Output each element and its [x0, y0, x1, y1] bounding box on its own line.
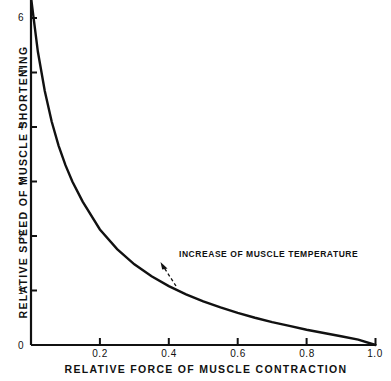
- x-tick-label-0-8: 0.8: [290, 348, 324, 359]
- x-tick-label-1-0: 1.0: [358, 348, 391, 359]
- x-tick-label-0-6: 0.6: [221, 348, 255, 359]
- force-velocity-chart: 0 1 2 3 4 5 6 0.2 0.4 0.6 0.8 1.0 RELATI…: [0, 0, 391, 381]
- x-tick-label-0-2: 0.2: [83, 348, 117, 359]
- chart-plot-area: [0, 0, 391, 381]
- y-axis-title: RELATIVE SPEED OF MUSCLE SHORTENING: [17, 32, 29, 332]
- y-tick-label-6: 6: [10, 12, 24, 23]
- x-axis-title: RELATIVE FORCE OF MUSCLE CONTRACTION: [31, 363, 381, 375]
- annotation-label: INCREASE OF MUSCLE TEMPERATURE: [179, 249, 358, 259]
- x-tick-label-0-4: 0.4: [152, 348, 186, 359]
- force-velocity-curve: [31, 0, 376, 345]
- y-tick-label-0: 0: [10, 340, 24, 351]
